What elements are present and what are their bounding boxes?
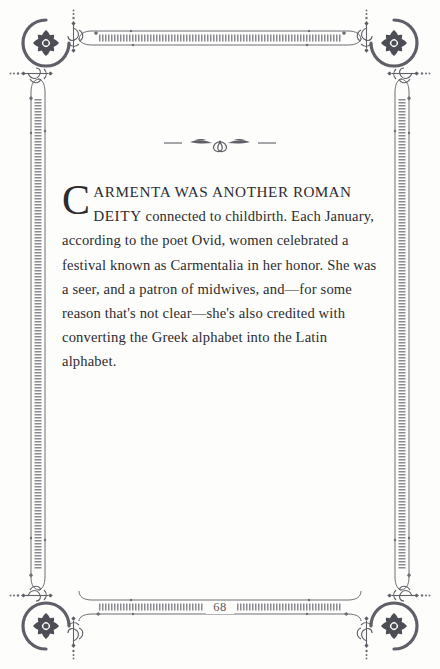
body-paragraph: CARMENTA WAS ANOTHER ROMAN DEITY connect… xyxy=(62,180,382,374)
corner-ornament-bottom-right xyxy=(357,586,430,659)
page-number: 68 xyxy=(0,600,440,615)
opening-proper-noun: ROMAN xyxy=(293,183,351,200)
floral-divider-icon xyxy=(160,133,280,155)
corner-ornament-top-left xyxy=(10,10,83,83)
opening-smallcaps: ARMENTA WAS ANOTHER xyxy=(93,183,293,200)
page-content: CARMENTA WAS ANOTHER ROMAN DEITY connect… xyxy=(62,180,382,374)
corner-ornament-top-right xyxy=(357,10,430,83)
corner-ornament-bottom-left xyxy=(10,586,83,659)
paragraph-body: connected to childbirth. Each January, a… xyxy=(62,208,376,369)
page-number-value: 68 xyxy=(206,601,234,614)
drop-cap: C xyxy=(62,181,93,217)
opening-smallcaps-continued: DEITY xyxy=(93,207,142,224)
border-top-rail xyxy=(79,30,361,46)
book-page: CARMENTA WAS ANOTHER ROMAN DEITY connect… xyxy=(0,0,440,669)
section-divider xyxy=(0,132,440,156)
